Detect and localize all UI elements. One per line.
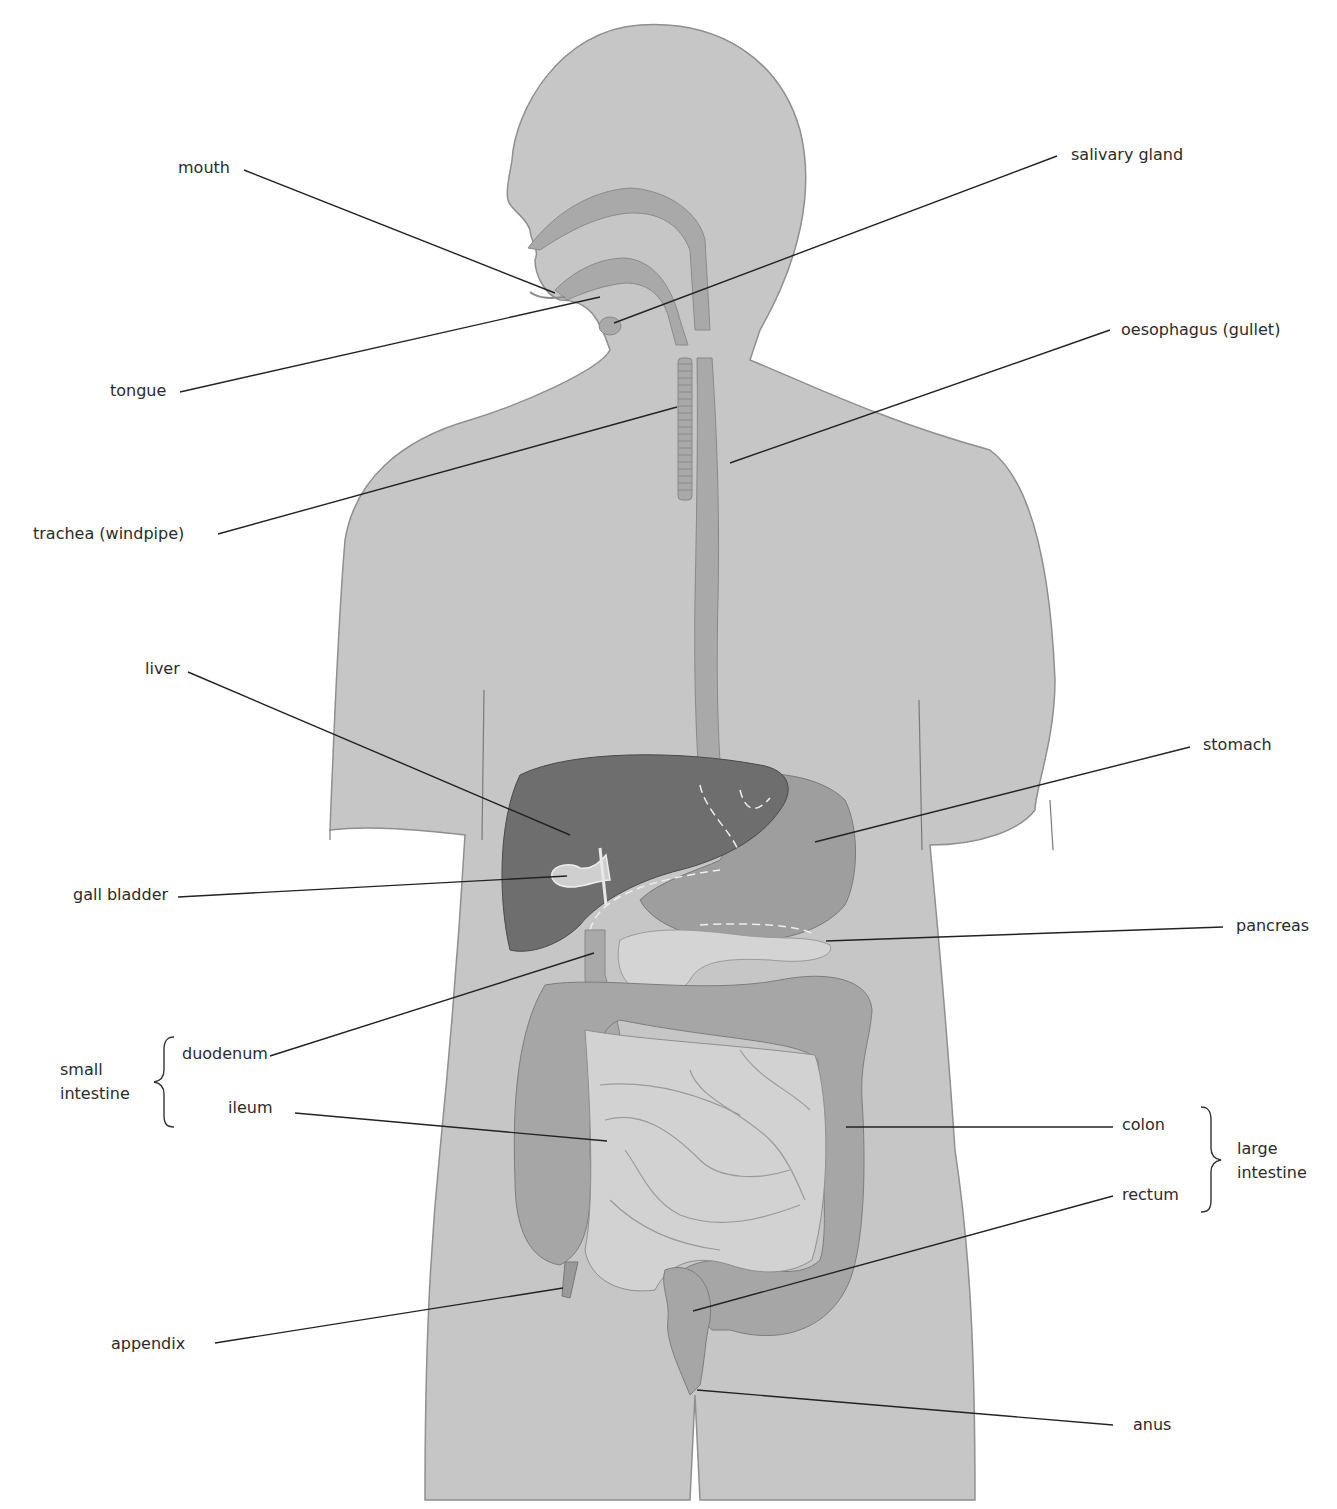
label-rectum: rectum xyxy=(1122,1185,1179,1205)
digestive-system-diagram xyxy=(0,0,1337,1509)
label-oesophagus: oesophagus (gullet) xyxy=(1121,320,1280,340)
label-trachea: trachea (windpipe) xyxy=(33,524,184,544)
label-gall-bladder: gall bladder xyxy=(73,885,168,905)
label-duodenum: duodenum xyxy=(182,1044,268,1064)
label-ileum: ileum xyxy=(228,1098,272,1118)
label-pancreas: pancreas xyxy=(1236,916,1309,936)
group-label-small-intestine: small intestine xyxy=(60,1058,130,1106)
group-small-intestine-line1: small xyxy=(60,1058,130,1082)
small-intestine-brace xyxy=(154,1037,174,1127)
label-liver: liver xyxy=(145,659,180,679)
small-intestine xyxy=(585,1030,826,1291)
group-large-intestine-line2: intestine xyxy=(1237,1161,1307,1185)
label-appendix: appendix xyxy=(111,1334,185,1354)
large-intestine-brace xyxy=(1201,1107,1221,1212)
label-anus: anus xyxy=(1133,1415,1171,1435)
label-colon: colon xyxy=(1122,1115,1165,1135)
group-small-intestine-line2: intestine xyxy=(60,1082,130,1106)
label-stomach: stomach xyxy=(1203,735,1272,755)
trachea-rings xyxy=(678,358,692,500)
label-tongue: tongue xyxy=(110,381,166,401)
group-label-large-intestine: large intestine xyxy=(1237,1137,1307,1185)
group-large-intestine-line1: large xyxy=(1237,1137,1307,1161)
label-mouth: mouth xyxy=(178,158,230,178)
label-salivary-gland: salivary gland xyxy=(1071,145,1183,165)
